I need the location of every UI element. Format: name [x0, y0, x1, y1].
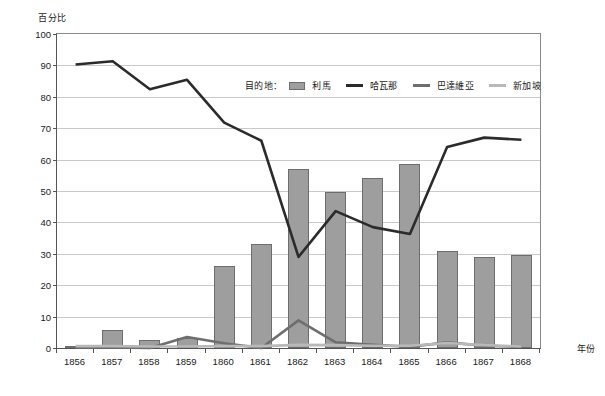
y-axis-tick-label: 0: [46, 343, 51, 354]
x-axis-tick-mark: [428, 349, 429, 353]
line-series: [76, 343, 522, 346]
y-axis-tick-label: 40: [40, 217, 51, 228]
legend-label: 哈瓦那: [370, 79, 398, 92]
y-axis-tick-label: 100: [35, 29, 51, 40]
y-axis-tick-label: 70: [40, 123, 51, 134]
y-axis-tick-label: 80: [40, 91, 51, 102]
x-axis-tick-label: 1865: [398, 356, 419, 367]
x-axis-tick-mark: [539, 349, 540, 353]
legend-item: 巴達維亞: [413, 79, 474, 92]
legend-item: 利馬: [289, 79, 331, 92]
x-axis: 1856185718581859186018611862186318641865…: [56, 349, 539, 371]
x-axis-tick-label: 1867: [473, 356, 494, 367]
legend-swatch-line: [489, 84, 506, 87]
legend-label: 利馬: [312, 79, 331, 92]
x-axis-tick-label: 1862: [287, 356, 308, 367]
x-axis-tick-mark: [465, 349, 466, 353]
y-axis-tick-label: 50: [40, 186, 51, 197]
y-axis-tick-label: 30: [40, 248, 51, 259]
x-axis-tick-label: 1856: [64, 356, 85, 367]
x-axis-tick-label: 1861: [250, 356, 271, 367]
legend-swatch-box: [289, 82, 305, 90]
x-axis-tick-label: 1864: [361, 356, 382, 367]
legend: 目的地： 利馬哈瓦那巴達維亞新加坡: [245, 79, 541, 92]
y-axis-tick-label: 10: [40, 311, 51, 322]
x-axis-title: 年份: [577, 342, 595, 355]
x-axis-tick-label: 1868: [510, 356, 531, 367]
x-axis-tick-label: 1859: [175, 356, 196, 367]
x-axis-tick-mark: [390, 349, 391, 353]
y-axis-tick-label: 90: [40, 60, 51, 71]
y-axis-tick-label: 60: [40, 154, 51, 165]
legend-swatch-line: [413, 84, 430, 87]
x-axis-tick-mark: [316, 349, 317, 353]
x-axis-tick-mark: [130, 349, 131, 353]
x-axis-tick-label: 1857: [101, 356, 122, 367]
y-axis-title: 百分比: [38, 11, 67, 24]
legend-label: 巴達維亞: [437, 79, 474, 92]
x-axis-tick-label: 1858: [138, 356, 159, 367]
x-axis-tick-mark: [279, 349, 280, 353]
x-axis-tick-label: 1860: [213, 356, 234, 367]
legend-item: 新加坡: [489, 79, 541, 92]
x-axis-tick-mark: [56, 349, 57, 353]
y-axis-tick-label: 20: [40, 280, 51, 291]
x-axis-tick-label: 1866: [436, 356, 457, 367]
legend-label: 新加坡: [513, 79, 541, 92]
chart-screenshot: 百分比 年份 0102030405060708090100 目的地： 利馬哈瓦那…: [0, 0, 605, 396]
legend-item: 哈瓦那: [346, 79, 398, 92]
x-axis-tick-mark: [205, 349, 206, 353]
legend-title: 目的地：: [245, 79, 282, 92]
x-axis-tick-label: 1863: [324, 356, 345, 367]
legend-swatch-line: [346, 84, 363, 87]
x-axis-tick-mark: [242, 349, 243, 353]
x-axis-tick-mark: [93, 349, 94, 353]
x-axis-tick-mark: [502, 349, 503, 353]
plot-area: 0102030405060708090100 目的地： 利馬哈瓦那巴達維亞新加坡: [56, 33, 541, 349]
x-axis-tick-mark: [167, 349, 168, 353]
x-axis-tick-mark: [353, 349, 354, 353]
